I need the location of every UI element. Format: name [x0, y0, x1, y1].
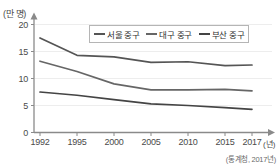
legend-item-busan: 부산 중구 [199, 28, 244, 40]
y-axis-arrow-icon [31, 13, 38, 20]
legend-label-busan: 부산 중구 [212, 28, 244, 40]
legend-swatch-icon-busan [199, 33, 210, 35]
x-tick-label-2017: 2017 [243, 137, 262, 147]
legend-label-seoul: 서울 중구 [107, 28, 139, 40]
x-tick-label-2000: 2000 [105, 137, 124, 147]
x-axis-arrow-icon [268, 129, 275, 136]
series-lines [40, 38, 252, 109]
legend-swatch-icon-daegu [146, 33, 157, 35]
legend: 서울 중구 대구 중구 부산 중구 [89, 25, 249, 43]
x-axis-unit-label: (년) [263, 138, 275, 149]
x-tick-label-1995: 1995 [68, 137, 87, 147]
x-tick-label-2005: 2005 [142, 137, 161, 147]
legend-label-daegu: 대구 중구 [159, 28, 191, 40]
source-note: (통계청, 2017년) [226, 153, 276, 164]
x-tick-label-2015: 2015 [216, 137, 235, 147]
series-line-2 [40, 92, 252, 109]
x-tick-label-2010: 2010 [179, 137, 198, 147]
legend-item-seoul: 서울 중구 [94, 28, 139, 40]
x-tick-label-1992: 1992 [31, 137, 50, 147]
legend-item-daegu: 대구 중구 [146, 28, 191, 40]
legend-swatch-icon-seoul [94, 33, 105, 35]
line-chart: (만 명) 20 15 10 5 0 서울 중구 대구 중구 부산 중구 199… [0, 0, 280, 166]
